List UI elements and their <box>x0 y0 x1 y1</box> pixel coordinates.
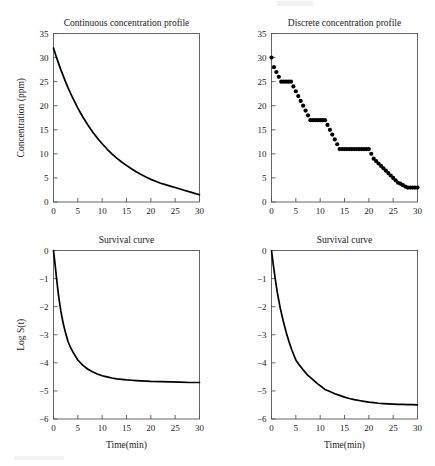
y-tick-label: 10 <box>258 149 268 159</box>
x-axis-label: Time(min) <box>106 440 147 451</box>
panel-title: Discrete concentration profile <box>288 18 401 28</box>
data-point <box>367 147 371 151</box>
x-tick-label: 30 <box>195 206 205 216</box>
x-tick-label: 25 <box>389 206 399 216</box>
y-tick-label: −3 <box>257 330 267 340</box>
data-point <box>289 80 293 84</box>
x-tick-label: 25 <box>171 206 181 216</box>
data-point <box>333 137 337 141</box>
x-tick-label: 0 <box>269 423 274 433</box>
y-tick-label: 20 <box>258 101 268 111</box>
y-tick-label: 0 <box>262 197 267 207</box>
multi-panel-figure: Continuous concentration profile05101520… <box>0 0 435 466</box>
x-tick-label: 0 <box>269 206 274 216</box>
x-tick-label: 15 <box>122 423 132 433</box>
data-point <box>269 55 273 59</box>
data-point <box>306 113 310 117</box>
y-tick-label: −2 <box>39 302 49 312</box>
data-point <box>301 104 305 108</box>
y-axis-label: Concentration (ppm) <box>16 78 27 157</box>
data-point <box>415 185 419 189</box>
x-tick-label: 15 <box>340 423 350 433</box>
y-tick-label: −5 <box>39 386 49 396</box>
y-tick-label: 15 <box>258 125 268 135</box>
y-tick-label: 5 <box>262 173 267 183</box>
panel-title: Survival curve <box>99 235 155 245</box>
x-tick-label: 25 <box>389 423 399 433</box>
x-tick-label: 20 <box>146 423 156 433</box>
x-tick-label: 10 <box>316 423 326 433</box>
y-tick-label: −6 <box>39 414 49 424</box>
data-point <box>296 94 300 98</box>
y-tick-label: 30 <box>40 53 50 63</box>
figure-container: Continuous concentration profile05101520… <box>0 0 435 466</box>
y-tick-label: −1 <box>257 274 267 284</box>
top-artifact-mark <box>277 1 313 6</box>
x-tick-label: 30 <box>413 206 423 216</box>
x-tick-label: 30 <box>413 423 423 433</box>
x-tick-label: 5 <box>76 423 81 433</box>
y-tick-label: 15 <box>40 125 50 135</box>
y-axis-label: Log S(t) <box>16 319 27 351</box>
data-point <box>299 99 303 103</box>
data-point <box>277 75 281 79</box>
figure-background <box>0 0 435 466</box>
data-point <box>272 65 276 69</box>
data-point <box>303 108 307 112</box>
data-point <box>294 89 298 93</box>
y-tick-label: −2 <box>257 302 267 312</box>
y-tick-label: −6 <box>257 414 267 424</box>
data-point <box>369 152 373 156</box>
data-point <box>328 128 332 132</box>
data-point <box>323 118 327 122</box>
data-point <box>325 123 329 127</box>
y-tick-label: −3 <box>39 330 49 340</box>
x-tick-label: 20 <box>364 423 374 433</box>
bottom-artifact-mark <box>14 456 64 460</box>
panel-title: Continuous concentration profile <box>64 18 190 28</box>
y-tick-label: 5 <box>44 173 49 183</box>
panel-title: Survival curve <box>317 235 373 245</box>
x-tick-label: 5 <box>294 423 299 433</box>
x-tick-label: 0 <box>51 206 56 216</box>
y-tick-label: 0 <box>262 246 267 256</box>
x-tick-label: 15 <box>340 206 350 216</box>
y-tick-label: 25 <box>258 77 268 87</box>
y-tick-label: −5 <box>257 386 267 396</box>
y-tick-label: 35 <box>40 29 50 39</box>
x-tick-label: 10 <box>316 206 326 216</box>
x-tick-label: 25 <box>171 423 181 433</box>
y-tick-label: −1 <box>39 274 49 284</box>
x-tick-label: 10 <box>98 206 108 216</box>
data-point <box>330 133 334 137</box>
x-tick-label: 30 <box>195 423 205 433</box>
y-tick-label: 25 <box>40 77 50 87</box>
data-point <box>335 142 339 146</box>
y-tick-label: 30 <box>258 53 268 63</box>
y-tick-label: 10 <box>40 149 50 159</box>
x-tick-label: 20 <box>364 206 374 216</box>
x-tick-label: 15 <box>122 206 132 216</box>
y-tick-label: −4 <box>39 358 49 368</box>
x-tick-label: 20 <box>146 206 156 216</box>
y-tick-label: 0 <box>44 246 49 256</box>
x-tick-label: 0 <box>51 423 56 433</box>
y-tick-label: −4 <box>257 358 267 368</box>
x-tick-label: 10 <box>98 423 108 433</box>
y-tick-label: 20 <box>40 101 50 111</box>
data-point <box>291 84 295 88</box>
y-tick-label: 0 <box>44 197 49 207</box>
data-point <box>274 70 278 74</box>
x-axis-label: Time(min) <box>324 440 365 451</box>
y-tick-label: 35 <box>258 29 268 39</box>
x-tick-label: 5 <box>76 206 81 216</box>
x-tick-label: 5 <box>294 206 299 216</box>
